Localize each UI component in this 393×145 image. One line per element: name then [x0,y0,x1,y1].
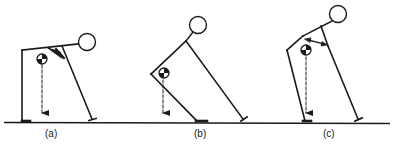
panel-label-c: (c) [323,128,335,139]
head-icon [330,6,347,23]
center-of-mass-icon [301,45,311,55]
center-of-mass-icon [159,68,169,78]
head-icon [79,34,96,51]
panel-c [287,6,362,122]
center-of-mass-icon [37,54,47,64]
head-icon [190,17,207,34]
panel-label-a: (a) [45,128,57,139]
panel-a [22,34,96,122]
posture-diagram [0,0,393,145]
ground-line [4,123,390,124]
panel-label-b: (b) [194,128,206,139]
